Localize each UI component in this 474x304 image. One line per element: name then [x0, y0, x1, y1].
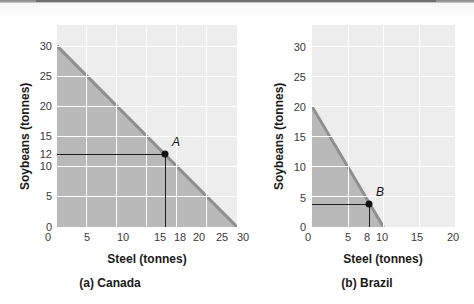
- chart-panel-brazil: B 0 5 10 15 20 25 30 0 5 8 10 15 20 Soyb…: [250, 0, 474, 304]
- data-point-a-label: A: [172, 135, 180, 149]
- gridline-y-20: [312, 106, 455, 107]
- x-tick-canada-25: 25: [216, 232, 228, 243]
- gridline-y-10: [312, 166, 455, 167]
- gridline-y-15: [312, 136, 455, 137]
- gridline-y-25: [57, 76, 237, 77]
- panel-caption-canada: (a) Canada: [79, 276, 140, 290]
- chart-panel-canada: A 0 5 10 12 15 20 25 30 0 5 10 15 18 20 …: [0, 0, 250, 304]
- gridline-y-20: [57, 106, 237, 107]
- x-tick-canada-15: 15: [154, 232, 166, 243]
- x-tick-canada-10: 10: [117, 232, 129, 243]
- data-point-b: [366, 201, 373, 208]
- gridline-y-10: [57, 166, 237, 167]
- y-tick-brazil-25: 25: [278, 72, 306, 83]
- guide-line-horizontal-a: [57, 154, 165, 155]
- gridline-y-30: [57, 46, 237, 47]
- x-tick-canada-18: 18: [174, 232, 186, 243]
- x-tick-brazil-15: 15: [411, 232, 423, 243]
- x-axis-title-canada: Steel (tonnes): [107, 252, 186, 266]
- x-tick-brazil-20: 20: [447, 232, 459, 243]
- x-tick-canada-20: 20: [193, 232, 205, 243]
- x-tick-brazil-5: 5: [345, 232, 351, 243]
- x-axis-title-brazil: Steel (tonnes): [343, 252, 422, 266]
- plot-area-canada: A: [57, 25, 237, 227]
- data-point-a: [162, 151, 169, 158]
- y-tick-canada-30: 30: [24, 41, 52, 52]
- x-tick-brazil-8: 8: [364, 232, 370, 243]
- guide-line-vertical-a: [165, 154, 166, 227]
- y-axis-title-canada: Soybeans (tonnes): [18, 83, 32, 190]
- y-tick-brazil-30: 30: [278, 42, 306, 53]
- y-tick-brazil-5: 5: [278, 193, 306, 204]
- panel-caption-brazil: (b) Brazil: [341, 276, 392, 290]
- guide-line-horizontal-b: [312, 204, 369, 205]
- gridline-y-25: [312, 76, 455, 77]
- x-tick-brazil-0: 0: [305, 232, 311, 243]
- x-tick-canada-30: 30: [237, 232, 249, 243]
- x-tick-canada-5: 5: [84, 232, 90, 243]
- y-tick-canada-5: 5: [24, 191, 52, 202]
- y-axis-title-brazil: Soybeans (tonnes): [272, 83, 286, 190]
- gridline-y-15: [57, 136, 237, 137]
- x-tick-canada-0: 0: [45, 232, 51, 243]
- gridline-y-30: [312, 46, 455, 47]
- y-tick-brazil-0: 0: [278, 222, 306, 233]
- gridline-y-5: [57, 196, 237, 197]
- data-point-b-label: B: [376, 185, 384, 199]
- y-tick-canada-25: 25: [24, 71, 52, 82]
- plot-area-brazil: B: [312, 25, 455, 227]
- x-tick-brazil-10: 10: [376, 232, 388, 243]
